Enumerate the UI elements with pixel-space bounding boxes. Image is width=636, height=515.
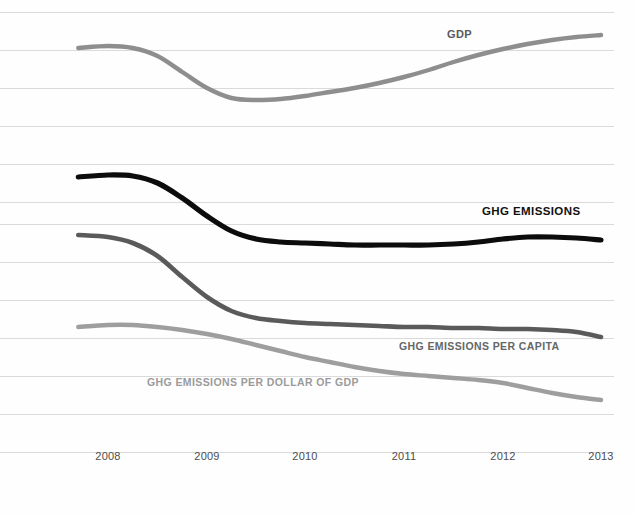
x-axis-tick-2012: 2012 xyxy=(490,450,515,462)
series-line-ghg-per-capita xyxy=(78,235,601,337)
series-line-gdp xyxy=(78,35,601,100)
series-label-ghg-per-capita: GHG EMISSIONS PER CAPITA xyxy=(399,340,560,352)
series-label-ghg-per-dollar-of-gdp: GHG EMISSIONS PER DOLLAR OF GDP xyxy=(147,376,359,388)
series-label-ghg-emissions: GHG EMISSIONS xyxy=(482,205,581,217)
x-axis-tick-2009: 2009 xyxy=(194,450,219,462)
x-axis-tick-2008: 2008 xyxy=(95,450,120,462)
x-axis-tick-2011: 2011 xyxy=(392,450,416,462)
x-axis: 200820092010201120122013 xyxy=(0,446,636,474)
x-axis-tick-2013: 2013 xyxy=(588,450,613,462)
chart-plot-area xyxy=(0,0,636,515)
series-line-ghg-per-dollar-of-gdp xyxy=(78,325,601,400)
series-label-gdp: GDP xyxy=(447,28,472,40)
x-axis-tick-2010: 2010 xyxy=(292,450,317,462)
chart-container: U.S. GDP and Greenhouse Gas Emissions In… xyxy=(0,0,636,515)
